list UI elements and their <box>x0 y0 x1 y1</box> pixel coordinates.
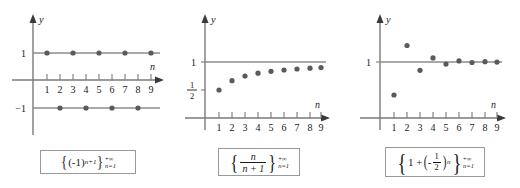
svg-text:4: 4 <box>84 84 89 95</box>
panel-damped-oscillation: y n 1 1 2 <box>345 0 520 188</box>
formula-open-brace: { <box>230 151 238 173</box>
formula-open-brace: { <box>398 150 407 175</box>
sequence-figure: y n 1 −1 <box>0 0 520 188</box>
formula-base: -1 <box>72 157 81 168</box>
data-point <box>391 92 396 97</box>
x-tick-labels: 1 2 3 4 5 6 7 8 9 <box>45 84 154 95</box>
data-point <box>96 50 101 55</box>
formula-upper-limit: +∞ <box>278 155 289 162</box>
data-point <box>494 60 499 65</box>
panel-alternating-sequence: y n 1 −1 <box>0 0 175 188</box>
data-points <box>391 43 499 98</box>
formula-numerator: n <box>249 151 258 162</box>
svg-text:6: 6 <box>282 122 287 133</box>
data-point <box>216 87 221 92</box>
formula-alternating: {(-1)n+1}+∞n=1 <box>60 154 116 171</box>
data-point <box>83 105 88 110</box>
x-axis-label: n <box>491 99 496 110</box>
data-point <box>469 60 474 65</box>
data-point <box>482 59 487 64</box>
svg-text:8: 8 <box>136 84 141 95</box>
formula-upper-limit: +∞ <box>105 155 116 162</box>
y-axis-arrow <box>202 14 209 23</box>
y-axis-label: y <box>385 14 391 25</box>
plot-n-over-n-plus-1: y n 1 1 2 <box>163 0 343 145</box>
formula-limits: +∞n=1 <box>278 155 289 170</box>
x-tick-marks <box>47 74 151 80</box>
data-point <box>268 69 273 74</box>
caption-box-damped-oscillation: {1 +(-12)n}+∞n=1 <box>385 147 485 177</box>
svg-text:7: 7 <box>123 84 128 95</box>
svg-text:9: 9 <box>319 122 324 133</box>
formula-sign: - <box>428 157 432 168</box>
y-tick-label-1: 1 <box>366 57 371 68</box>
formula-paren-close: ) <box>443 154 447 170</box>
data-point <box>57 105 62 110</box>
svg-text:1: 1 <box>190 80 194 90</box>
svg-text:2: 2 <box>230 122 235 133</box>
svg-text:3: 3 <box>418 122 423 133</box>
formula-close-brace: } <box>452 150 461 175</box>
data-points <box>216 65 323 93</box>
svg-text:3: 3 <box>243 122 248 133</box>
svg-text:1: 1 <box>217 122 222 133</box>
svg-text:4: 4 <box>431 122 436 133</box>
data-point <box>307 66 312 71</box>
y-axis-arrow <box>30 14 37 23</box>
x-tick-labels: 1 2 3 4 5 6 7 8 9 <box>217 122 324 133</box>
svg-text:6: 6 <box>110 84 115 95</box>
svg-text:1: 1 <box>392 122 397 133</box>
data-point <box>294 66 299 71</box>
formula-denominator: 2 <box>433 162 441 172</box>
formula-numerator: 1 <box>433 152 441 161</box>
y-axis-label: y <box>38 14 44 25</box>
y-tick-label-1: 1 <box>21 48 26 59</box>
data-point <box>122 50 127 55</box>
formula-close-brace: } <box>268 151 276 173</box>
svg-text:7: 7 <box>295 122 300 133</box>
x-tick-marks <box>394 112 497 118</box>
panel-n-over-n-plus-1: y n 1 1 2 <box>163 0 343 188</box>
data-point <box>255 71 260 76</box>
formula-paren-group: (-12) <box>423 152 448 172</box>
formula-fraction: 12 <box>433 152 441 172</box>
formula-n-over-n-plus-1: {nn + 1}+∞n=1 <box>229 151 289 174</box>
data-point <box>70 50 75 55</box>
caption-box-n-over-n-plus-1: {nn + 1}+∞n=1 <box>218 148 300 176</box>
data-point <box>242 73 247 78</box>
formula-limits: +∞n=1 <box>463 155 474 170</box>
svg-text:5: 5 <box>269 122 274 133</box>
x-axis-arrow <box>321 115 330 122</box>
data-point <box>148 50 153 55</box>
y-tick-label-1: 1 <box>191 57 196 68</box>
y-axis-arrow <box>377 14 384 23</box>
x-axis-arrow <box>497 115 506 122</box>
data-point <box>404 43 409 48</box>
svg-text:3: 3 <box>71 84 76 95</box>
svg-text:8: 8 <box>483 122 488 133</box>
svg-text:9: 9 <box>495 122 500 133</box>
svg-text:5: 5 <box>97 84 102 95</box>
y-tick-label-half: 1 2 <box>187 80 197 101</box>
formula-limits: +∞n=1 <box>105 155 116 170</box>
data-point <box>109 105 114 110</box>
svg-text:8: 8 <box>308 122 313 133</box>
formula-leading: 1 + <box>408 157 422 168</box>
formula-lower-limit: n=1 <box>105 162 116 169</box>
formula-paren-open: ( <box>423 154 427 170</box>
formula-denominator: n + 1 <box>240 162 266 174</box>
svg-text:2: 2 <box>58 84 63 95</box>
data-point <box>430 55 435 60</box>
data-point <box>135 105 140 110</box>
svg-text:1: 1 <box>45 84 50 95</box>
formula-close-brace: } <box>97 154 103 171</box>
svg-text:6: 6 <box>457 122 462 133</box>
data-point <box>417 68 422 73</box>
svg-text:7: 7 <box>470 122 475 133</box>
data-point <box>456 58 461 63</box>
x-axis-label: n <box>150 61 155 72</box>
formula-lower-limit: n=1 <box>463 162 474 169</box>
data-point <box>229 78 234 83</box>
data-point <box>443 62 448 67</box>
y-axis-label: y <box>210 14 216 25</box>
